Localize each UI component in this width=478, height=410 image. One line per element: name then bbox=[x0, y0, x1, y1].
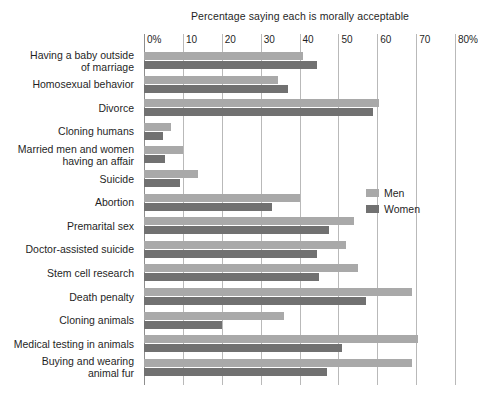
bar-group bbox=[144, 264, 455, 282]
bar-women bbox=[144, 273, 319, 281]
legend-item-men: Men bbox=[366, 186, 436, 200]
category-label: Cloning animals bbox=[0, 314, 138, 326]
bar-women bbox=[144, 321, 222, 329]
bar-women bbox=[144, 61, 317, 69]
bar-women bbox=[144, 155, 165, 163]
x-tick-label-80: 80% bbox=[455, 34, 478, 45]
bar-men bbox=[144, 241, 346, 249]
bar-group bbox=[144, 146, 455, 164]
legend-swatch-women bbox=[366, 205, 379, 213]
category-label: Divorce bbox=[0, 102, 138, 114]
category-label: Death penalty bbox=[0, 291, 138, 303]
bars-layer bbox=[144, 51, 455, 385]
category-label: Doctor-assisted suicide bbox=[0, 243, 138, 255]
bar-men bbox=[144, 264, 358, 272]
bar-group bbox=[144, 288, 455, 306]
bar-group bbox=[144, 241, 455, 259]
category-axis: Having a baby outside of marriageHomosex… bbox=[0, 34, 138, 392]
category-label: Premarital sex bbox=[0, 220, 138, 232]
category-label: Cloning humans bbox=[0, 125, 138, 137]
gridline-80 bbox=[455, 34, 456, 385]
bar-women bbox=[144, 250, 317, 258]
bar-women bbox=[144, 226, 329, 234]
bar-group bbox=[144, 99, 455, 117]
category-label: Suicide bbox=[0, 173, 138, 185]
legend-item-women: Women bbox=[366, 202, 436, 216]
chart-title: Percentage saying each is morally accept… bbox=[144, 10, 456, 22]
bar-women bbox=[144, 368, 327, 376]
bar-women bbox=[144, 297, 366, 305]
bar-women bbox=[144, 344, 342, 352]
category-label: Married men and women having an affair bbox=[0, 143, 138, 167]
bar-men bbox=[144, 146, 183, 154]
bar-women bbox=[144, 179, 180, 187]
bar-men bbox=[144, 335, 418, 343]
category-label: Abortion bbox=[0, 196, 138, 208]
category-label: Stem cell research bbox=[0, 267, 138, 279]
bar-group bbox=[144, 359, 455, 377]
category-label: Homosexual behavior bbox=[0, 78, 138, 90]
bar-group bbox=[144, 76, 455, 94]
bar-group bbox=[144, 335, 455, 353]
bar-group bbox=[144, 52, 455, 70]
legend-label: Women bbox=[384, 203, 420, 215]
bar-men bbox=[144, 288, 412, 296]
bar-men bbox=[144, 76, 278, 84]
bar-men bbox=[144, 194, 300, 202]
bar-group bbox=[144, 217, 455, 235]
bar-men bbox=[144, 99, 379, 107]
bar-men bbox=[144, 170, 198, 178]
legend: MenWomen bbox=[366, 186, 436, 218]
bar-women bbox=[144, 108, 373, 116]
legend-label: Men bbox=[384, 187, 404, 199]
bar-men bbox=[144, 52, 303, 60]
bar-women bbox=[144, 132, 163, 140]
bar-men bbox=[144, 359, 412, 367]
category-label: Buying and wearing animal fur bbox=[0, 355, 138, 379]
bar-group bbox=[144, 312, 455, 330]
category-label: Having a baby outside of marriage bbox=[0, 49, 138, 73]
category-label: Medical testing in animals bbox=[0, 338, 138, 350]
legend-swatch-men bbox=[366, 189, 379, 197]
bar-women bbox=[144, 85, 288, 93]
bar-men bbox=[144, 217, 354, 225]
bar-men bbox=[144, 312, 284, 320]
bar-group bbox=[144, 123, 455, 141]
bar-women bbox=[144, 203, 272, 211]
bar-men bbox=[144, 123, 171, 131]
